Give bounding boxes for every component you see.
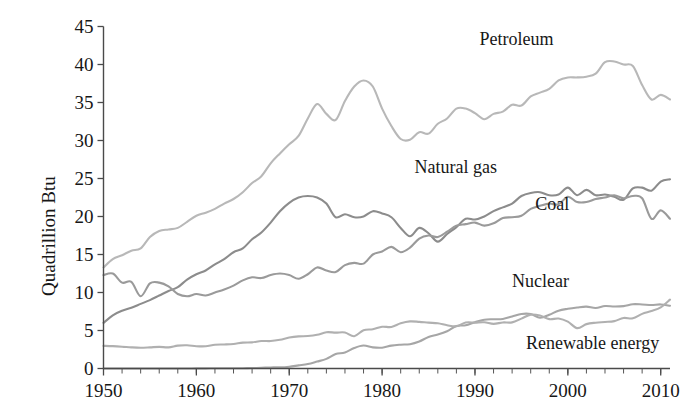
series-label-renewable-energy: Renewable energy	[526, 334, 659, 352]
y-tick-label: 10	[52, 283, 94, 302]
y-axis-ticks	[98, 27, 104, 369]
y-tick-label: 5	[52, 321, 94, 340]
chart-plot-svg	[0, 0, 694, 419]
y-axis-title: Quadrillion Btu	[38, 176, 60, 296]
series-group	[104, 61, 671, 369]
series-label-nuclear: Nuclear	[512, 272, 569, 290]
x-tick-label: 1990	[440, 381, 510, 400]
x-tick-label: 1950	[69, 381, 139, 400]
series-line-petroleum	[104, 61, 671, 267]
series-label-coal: Coal	[535, 195, 569, 213]
x-tick-label: 1980	[347, 381, 417, 400]
series-label-petroleum: Petroleum	[480, 30, 554, 48]
energy-consumption-line-chart: Quadrillion Btu 051015202530354045 19501…	[0, 0, 694, 419]
y-tick-label: 35	[52, 93, 94, 112]
axes-group	[98, 27, 671, 376]
y-tick-label: 15	[52, 245, 94, 264]
series-line-natural-gas	[104, 179, 671, 323]
y-tick-label: 20	[52, 207, 94, 226]
x-tick-label: 2010	[626, 381, 694, 400]
series-label-natural-gas: Natural gas	[415, 158, 497, 176]
series-line-coal	[104, 195, 671, 296]
x-axis-ticks	[104, 369, 661, 376]
y-tick-label: 40	[52, 55, 94, 74]
x-tick-label: 1960	[161, 381, 231, 400]
y-tick-label: 25	[52, 169, 94, 188]
x-tick-label: 2000	[533, 381, 603, 400]
y-tick-label: 45	[52, 17, 94, 36]
y-tick-label: 30	[52, 131, 94, 150]
x-tick-label: 1970	[254, 381, 324, 400]
y-tick-label: 0	[52, 359, 94, 378]
